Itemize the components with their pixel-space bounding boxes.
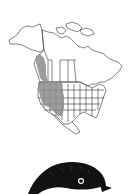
bird-beak: [100, 184, 112, 192]
province-lines: [44, 50, 76, 82]
chickadee-illustration: [0, 150, 130, 194]
arctic-islands-outline: [56, 22, 94, 36]
range-map: [0, 0, 130, 140]
bird-cheek: [44, 188, 98, 194]
alaska-outline: [9, 24, 44, 52]
